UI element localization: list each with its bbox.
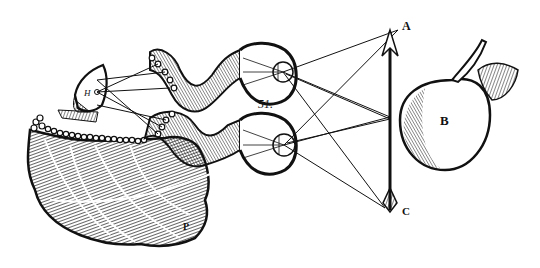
label-a: A	[402, 19, 411, 33]
label-b: B	[440, 113, 449, 128]
figure-number: 51.	[258, 97, 273, 111]
apple-object: B	[400, 40, 518, 170]
label-pineal: H	[83, 88, 91, 98]
vision-diagram: H A C	[0, 0, 540, 268]
optic-nerve-upper	[149, 50, 240, 112]
label-p: P	[183, 221, 189, 232]
label-c: C	[402, 205, 410, 217]
